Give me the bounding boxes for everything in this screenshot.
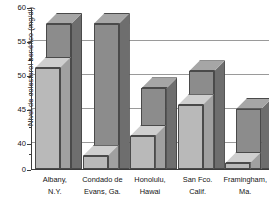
- bar-face: [83, 156, 108, 169]
- y-tick-55: [27, 42, 31, 43]
- bar-front-1: [83, 156, 108, 169]
- bar-group: [127, 8, 175, 169]
- y-tick-label-50: 50: [2, 72, 26, 80]
- x-axis-label-4: Framingham, Ma.: [215, 174, 275, 197]
- bar-group: [222, 8, 269, 169]
- x-axis-labels: Albany, N.Y.Condado de Evans, Ga.Honolul…: [31, 174, 269, 210]
- bar-group: [175, 8, 223, 169]
- bar-face: [178, 105, 203, 169]
- bar-side: [203, 94, 214, 169]
- plot-area: [31, 8, 269, 170]
- bar-face: [225, 163, 250, 169]
- bar-group: [80, 8, 128, 169]
- y-tick-label-55: 55: [2, 38, 26, 46]
- bar-face: [130, 136, 155, 169]
- y-tick-label-40: 40: [2, 140, 26, 148]
- y-tick-45: [27, 110, 31, 111]
- bar-front-3: [178, 105, 203, 169]
- bar-front-4: [225, 163, 250, 169]
- y-tick-minor-42.5: [29, 127, 32, 128]
- y-tick-label-0: 0: [2, 166, 26, 174]
- y-tick-minor-57.5: [29, 25, 32, 26]
- bar-front-2: [130, 136, 155, 169]
- y-tick-minor-52.5: [29, 59, 32, 60]
- y-tick-60: [27, 8, 31, 9]
- y-tick-minor-38.5: [29, 154, 32, 155]
- bar-group: [32, 8, 80, 169]
- y-tick-0: [27, 170, 31, 171]
- y-tick-label-60: 60: [2, 4, 26, 12]
- bar-side: [261, 98, 269, 169]
- y-tick-40: [27, 144, 31, 145]
- bar-side: [60, 57, 71, 169]
- y-tick-minor-47.5: [29, 93, 32, 94]
- chart-container: Nivel de colesterol benéfico (mg/dl) Alb…: [0, 0, 275, 211]
- bar-face: [35, 68, 60, 169]
- y-tick-50: [27, 76, 31, 77]
- y-tick-label-45: 45: [2, 106, 26, 114]
- bar-front-0: [35, 68, 60, 169]
